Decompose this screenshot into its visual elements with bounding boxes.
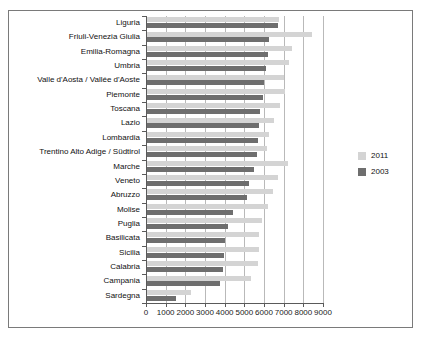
y-axis-tick	[142, 59, 146, 60]
x-axis-tick	[225, 303, 226, 307]
bar-2003	[146, 109, 260, 114]
category-label: Abruzzo	[0, 190, 140, 199]
x-axis-tick-label: 1000	[157, 308, 175, 318]
category-label: Sicilia	[0, 248, 140, 257]
x-axis-tick-label: 9000	[314, 308, 332, 318]
legend-swatch-icon	[358, 168, 366, 176]
bar-2003	[146, 238, 225, 243]
x-axis-tick-label: 4000	[216, 308, 234, 318]
category-label: Valle d'Aosta / Vallée d'Aoste	[0, 75, 140, 84]
bar-2011	[146, 218, 262, 223]
y-axis-tick	[142, 116, 146, 117]
bar-2003	[146, 296, 176, 301]
x-axis-tick-label: 7000	[275, 308, 293, 318]
bar-2011	[146, 103, 280, 108]
x-axis-tick-label: 0	[144, 308, 148, 318]
category-label: Liguria	[0, 18, 140, 27]
chart-legend: 20112003	[358, 150, 389, 182]
bar-2011	[146, 118, 274, 123]
legend-item-2003[interactable]: 2003	[358, 166, 389, 178]
bar-2011	[146, 46, 292, 51]
bar-2011	[146, 89, 285, 94]
y-axis-tick	[142, 102, 146, 103]
x-axis-tick-label: 5000	[235, 308, 253, 318]
bar-2011	[146, 189, 273, 194]
category-label: Emilia-Romagna	[0, 47, 140, 56]
x-axis-tick-label: 3000	[196, 308, 214, 318]
y-axis-tick	[142, 246, 146, 247]
bar-2011	[146, 132, 269, 137]
bar-2003	[146, 138, 258, 143]
gridline-8000	[303, 16, 304, 303]
bar-2011	[146, 17, 279, 22]
category-label: Veneto	[0, 176, 140, 185]
x-axis-tick	[264, 303, 265, 307]
bar-2011	[146, 32, 312, 37]
bar-2003	[146, 52, 268, 57]
y-axis-tick	[142, 289, 146, 290]
category-label: Marche	[0, 162, 140, 171]
y-axis-tick	[142, 174, 146, 175]
y-axis-tick	[142, 145, 146, 146]
bar-2003	[146, 123, 259, 128]
category-label: Sardegna	[0, 291, 140, 300]
gridline-3000	[205, 16, 206, 303]
x-axis-tick	[146, 303, 147, 307]
y-axis-tick	[142, 188, 146, 189]
bar-2011	[146, 247, 259, 252]
x-axis-tick	[323, 303, 324, 307]
x-axis-tick-label: 8000	[294, 308, 312, 318]
bar-2011	[146, 232, 259, 237]
x-axis-tick	[284, 303, 285, 307]
gridline-1000	[166, 16, 167, 303]
bar-2003	[146, 281, 220, 286]
legend-item-2011[interactable]: 2011	[358, 150, 389, 162]
bar-2011	[146, 146, 267, 151]
bar-2011	[146, 204, 268, 209]
category-label: Lazio	[0, 118, 140, 127]
bar-2011	[146, 290, 191, 295]
bar-2003	[146, 95, 263, 100]
x-axis-tick	[166, 303, 167, 307]
gridline-2000	[185, 16, 186, 303]
bar-2011	[146, 161, 288, 166]
bar-2003	[146, 195, 247, 200]
y-axis-tick	[142, 217, 146, 218]
bar-2003	[146, 267, 223, 272]
gridline-5000	[244, 16, 245, 303]
bar-2003	[146, 152, 257, 157]
y-axis-tick	[142, 274, 146, 275]
y-axis-tick	[142, 73, 146, 74]
gridline-9000	[323, 16, 324, 303]
plot-area	[146, 16, 323, 303]
x-axis-tick	[185, 303, 186, 307]
y-axis-tick	[142, 203, 146, 204]
y-axis-line	[146, 16, 147, 304]
bar-2003	[146, 167, 254, 172]
category-label: Molise	[0, 205, 140, 214]
bar-2003	[146, 253, 224, 258]
bar-2011	[146, 75, 284, 80]
category-label: Calabria	[0, 262, 140, 271]
bar-2003	[146, 37, 269, 42]
x-axis-tick-label: 2000	[176, 308, 194, 318]
bar-2003	[146, 23, 278, 28]
y-axis-tick	[142, 260, 146, 261]
category-axis-labels: LiguriaFriuli-Venezia GiuliaEmilia-Romag…	[0, 16, 143, 303]
bar-2011	[146, 276, 251, 281]
legend-swatch-icon	[358, 152, 366, 160]
y-axis-tick	[142, 16, 146, 17]
legend-label: 2003	[371, 168, 389, 176]
y-axis-tick	[142, 131, 146, 132]
x-axis-tick-label: 6000	[255, 308, 273, 318]
bar-2003	[146, 80, 264, 85]
bar-2003	[146, 181, 249, 186]
y-axis-tick	[142, 303, 146, 304]
y-axis-tick	[142, 30, 146, 31]
chart-root: LiguriaFriuli-Venezia GiuliaEmilia-Romag…	[0, 0, 422, 338]
category-label: Puglia	[0, 219, 140, 228]
category-label: Toscana	[0, 104, 140, 113]
y-axis-tick	[142, 88, 146, 89]
x-axis-line	[146, 303, 324, 304]
gridline-6000	[264, 16, 265, 303]
